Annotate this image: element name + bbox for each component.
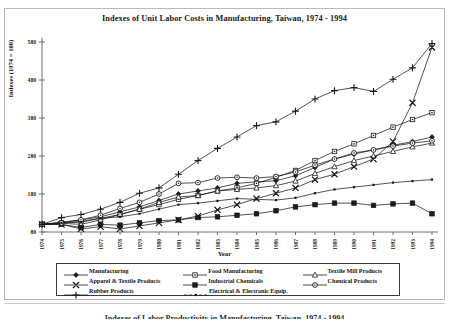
legend-item-industrial-chemicals: Industrial Chemicals (182, 276, 301, 286)
svg-text:1980: 1980 (156, 239, 162, 250)
svg-text:1984: 1984 (234, 239, 240, 250)
open-triangle-icon (302, 266, 328, 276)
legend-item-food-manufacturing: Food Manufacturing (182, 266, 301, 276)
svg-text:1987: 1987 (293, 239, 299, 250)
figure-page: Indexes of Unit Labor Costs in Manufactu… (0, 0, 449, 326)
svg-text:1990: 1990 (351, 239, 357, 250)
svg-text:1981: 1981 (176, 239, 182, 250)
legend-item-rubber-products: Rubber Products (57, 286, 183, 296)
open-square-icon (182, 266, 208, 276)
small-dot-icon (183, 286, 209, 296)
svg-text:1974: 1974 (39, 239, 45, 250)
svg-text:1978: 1978 (117, 239, 123, 250)
svg-text:1986: 1986 (273, 239, 279, 250)
svg-text:480: 480 (28, 77, 37, 83)
x-cross-icon (63, 276, 89, 286)
svg-text:1976: 1976 (78, 239, 84, 250)
svg-text:1977: 1977 (98, 239, 104, 250)
legend-row: Apparel & Textile ProductsIndustrial Che… (57, 276, 399, 286)
legend-label: Chemical Products (328, 276, 377, 286)
svg-text:1988: 1988 (312, 239, 318, 250)
svg-text:1993: 1993 (410, 239, 416, 250)
svg-text:1994: 1994 (429, 239, 435, 250)
legend-row: Rubber ProductsElectrical & Electronic E… (57, 286, 399, 296)
legend-item-manufacturing: Manufacturing (57, 266, 182, 276)
svg-text:580: 580 (28, 39, 37, 45)
svg-text:1975: 1975 (59, 239, 65, 250)
legend-item-chemical-products: Chemical Products (302, 276, 399, 286)
svg-text:1989: 1989 (332, 239, 338, 250)
x-axis-label: Year (0, 250, 449, 257)
legend-item-electrical-electronic-equip: Electrical & Electronic Equip. (183, 286, 303, 296)
legend-label: Industrial Chemicals (208, 276, 263, 286)
next-figure-title: Indexes of Labor Productivity in Manufac… (0, 314, 449, 323)
svg-text:1992: 1992 (390, 239, 396, 250)
legend-row: ManufacturingFood ManufacturingTextile M… (57, 266, 399, 276)
legend-label: Electrical & Electronic Equip. (209, 286, 288, 296)
filled-square-icon (182, 276, 208, 286)
svg-text:1982: 1982 (195, 239, 201, 250)
line-chart-plot: 8018028038048058019741975197619771978197… (0, 0, 449, 260)
svg-text:280: 280 (28, 153, 37, 159)
chart-legend: ManufacturingFood ManufacturingTextile M… (56, 263, 400, 296)
filled-diamond-icon (63, 266, 89, 276)
svg-text:1983: 1983 (215, 239, 221, 250)
legend-label: Food Manufacturing (208, 266, 262, 276)
plus-cross-icon (63, 286, 89, 296)
svg-text:1985: 1985 (254, 239, 260, 250)
legend-item-textile-mill-products: Textile Mill Products (302, 266, 399, 276)
svg-text:180: 180 (28, 191, 37, 197)
legend-label: Apparel & Textile Products (89, 276, 160, 286)
legend-item-apparel-textile-products: Apparel & Textile Products (57, 276, 182, 286)
open-circle-icon (302, 276, 328, 286)
legend-label: Rubber Products (89, 286, 134, 296)
legend-label: Textile Mill Products (328, 266, 383, 276)
section-divider (4, 303, 445, 304)
legend-label: Manufacturing (89, 266, 129, 276)
svg-text:80: 80 (30, 229, 36, 235)
svg-text:1979: 1979 (137, 239, 143, 250)
svg-text:380: 380 (28, 115, 37, 121)
svg-text:1991: 1991 (371, 239, 377, 250)
